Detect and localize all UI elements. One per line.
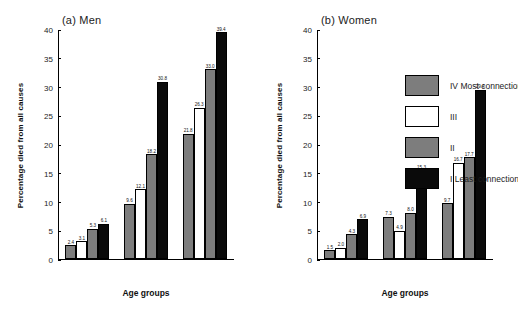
bar-ii: 4.3 (346, 234, 357, 259)
bar-iv: 7.3 (383, 217, 394, 259)
bar-value-label: 18.2 (147, 150, 156, 155)
legend-item-i: I Least connections (405, 163, 518, 194)
panel-b-y-tick-15: 15 (303, 169, 317, 178)
panel-b-y-axis-title-text: Percentage died from all causes (276, 82, 285, 207)
bar-ii: 5.3 (87, 229, 98, 259)
y-tick-label: 10 (44, 198, 58, 207)
bar-group: 9.612.118.230.8 (117, 29, 176, 259)
panel-b-title: (b) Women (321, 14, 377, 26)
bar-value-label: 1.5 (327, 246, 333, 251)
bar-iv: 2.4 (65, 245, 76, 259)
y-tick-label: 30 (44, 83, 58, 92)
bar-iv: 1.5 (324, 250, 335, 259)
bar-value-label: 6.9 (360, 215, 366, 220)
bar-value-label: 30.8 (158, 77, 167, 82)
panel-b-x-axis-title: Age groups (317, 288, 493, 298)
bar-value-label: 8.0 (407, 208, 413, 213)
panel-a-y-tick-25: 25 (44, 112, 58, 121)
y-tick-label: 15 (44, 169, 58, 178)
panel-a-y-tick-10: 10 (44, 198, 58, 207)
bar-iii: 26.3 (194, 108, 205, 259)
panel-b-x-axis-line (317, 259, 493, 260)
bar-ii: 33.0 (205, 69, 216, 259)
panel-a-y-tick-20: 20 (44, 141, 58, 150)
panel-a-y-tick-0: 0 (49, 256, 58, 265)
y-tick-label: 5 (49, 227, 58, 236)
y-tick-label: 20 (44, 141, 58, 150)
panel-b-plot-area: 4035302520151050 1.52.04.36.97.34.98.015… (317, 30, 493, 260)
y-tick-label: 35 (44, 54, 58, 63)
panel-a-y-axis-title: Percentage died from all causes (14, 30, 28, 260)
panel-a-bar-groups: 2.43.15.36.19.612.118.230.821.826.333.03… (58, 29, 234, 259)
panel-b-y-tick-0: 0 (308, 256, 317, 265)
figure-two-panel-bar-chart: (a) Men Percentage died from all causes … (0, 0, 518, 319)
bar-iv: 9.7 (442, 203, 453, 259)
bar-iii: 3.1 (76, 241, 87, 259)
panel-b-y-tick-40: 40 (303, 26, 317, 35)
panel-a-y-tick-35: 35 (44, 54, 58, 63)
legend-swatch-iii (405, 106, 439, 127)
panel-a-y-tick-30: 30 (44, 83, 58, 92)
bar-value-label: 6.1 (101, 219, 107, 224)
bar-i: 30.8 (157, 82, 168, 259)
bar-iv: 21.8 (183, 134, 194, 259)
y-tick-label: 15 (303, 169, 317, 178)
panel-a-x-axis-title: Age groups (58, 288, 234, 298)
y-tick-label: 10 (303, 198, 317, 207)
bar-value-label: 3.1 (79, 237, 85, 242)
bar-i: 6.1 (98, 224, 109, 259)
y-tick-label: 0 (49, 256, 58, 265)
bar-ii: 8.0 (405, 213, 416, 259)
y-tick-mark (317, 260, 320, 261)
panel-b-y-tick-30: 30 (303, 83, 317, 92)
bar-value-label: 2.0 (338, 243, 344, 248)
panel-b-y-tick-35: 35 (303, 54, 317, 63)
bar-value-label: 21.8 (184, 129, 193, 134)
bar-value-label: 9.7 (444, 199, 450, 204)
panel-a-title: (a) Men (62, 14, 101, 26)
panel-b-y-tick-5: 5 (308, 227, 317, 236)
y-tick-label: 40 (44, 26, 58, 35)
bar-i: 39.4 (216, 32, 227, 259)
chart-legend: IV Most connectionsIIIIII Least connecti… (405, 70, 518, 194)
legend-label: II (450, 143, 455, 153)
panel-a-y-tick-40: 40 (44, 26, 58, 35)
bar-iii: 12.1 (135, 189, 146, 259)
legend-swatch-iv (405, 75, 439, 96)
legend-label: I Least connections (450, 174, 518, 184)
y-tick-label: 5 (308, 227, 317, 236)
panel-b-y-tick-10: 10 (303, 198, 317, 207)
panel-a-y-tick-15: 15 (44, 169, 58, 178)
bar-value-label: 39.4 (217, 28, 226, 33)
legend-item-ii: II (405, 132, 518, 163)
y-tick-label: 20 (303, 141, 317, 150)
y-tick-label: 0 (308, 256, 317, 265)
panel-a-y-tick-5: 5 (49, 227, 58, 236)
bar-value-label: 9.6 (126, 199, 132, 204)
bar-value-label: 4.9 (396, 226, 402, 231)
y-tick-label: 25 (303, 112, 317, 121)
panel-a-plot-area: 4035302520151050 2.43.15.36.19.612.118.2… (58, 30, 234, 260)
bar-value-label: 5.3 (90, 224, 96, 229)
bar-value-label: 2.4 (68, 241, 74, 246)
bar-group: 2.43.15.36.1 (58, 29, 117, 259)
bar-group: 1.52.04.36.9 (317, 29, 376, 259)
bar-iv: 9.6 (124, 204, 135, 259)
panel-a-x-axis-line (58, 259, 234, 260)
bar-value-label: 26.3 (195, 103, 204, 108)
panel-a-y-axis-title-text: Percentage died from all causes (17, 82, 26, 207)
bar-value-label: 7.3 (385, 212, 391, 217)
bar-i: 6.9 (357, 219, 368, 259)
y-tick-label: 25 (44, 112, 58, 121)
legend-label: III (450, 112, 457, 122)
bar-value-label: 33.0 (206, 65, 215, 70)
bar-iii: 4.9 (394, 231, 405, 259)
legend-swatch-i (405, 168, 439, 189)
bar-ii: 18.2 (146, 154, 157, 259)
panel-b-y-tick-25: 25 (303, 112, 317, 121)
panel-women: (b) Women Percentage died from all cause… (259, 0, 518, 319)
bar-value-label: 12.1 (136, 185, 145, 190)
legend-item-iv: IV Most connections (405, 70, 518, 101)
panel-b-y-axis-title: Percentage died from all causes (273, 30, 287, 260)
panel-men: (a) Men Percentage died from all causes … (0, 0, 259, 319)
